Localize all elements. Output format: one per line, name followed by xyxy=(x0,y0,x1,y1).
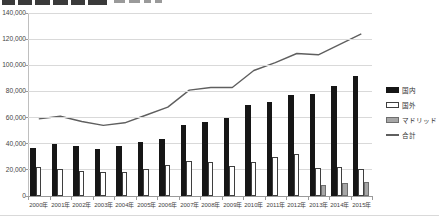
bar-国外-2010年 xyxy=(251,162,257,196)
y-axis-tick xyxy=(25,117,28,118)
x-axis-tick-label: 2005年 xyxy=(135,200,158,209)
bar-国外-2000年 xyxy=(36,167,42,196)
x-axis-tick xyxy=(200,197,201,200)
x-axis-tick-label: 2007年 xyxy=(178,200,201,209)
gridline xyxy=(28,117,372,118)
y-axis-tick xyxy=(25,169,28,170)
y-axis-tick xyxy=(25,39,28,40)
x-axis-tick xyxy=(50,197,51,200)
gridline xyxy=(28,13,372,14)
legend-item-madrid: マドリッド xyxy=(386,112,437,127)
black-swatch-icon xyxy=(386,87,399,93)
y-axis-tick-label: 20,000 xyxy=(0,167,26,173)
clipped-title-glyph xyxy=(155,0,162,3)
bar-国外-2011年 xyxy=(272,157,278,196)
x-axis-tick xyxy=(286,197,287,200)
x-axis-tick xyxy=(351,197,352,200)
x-axis-tick-label: 2009年 xyxy=(221,200,244,209)
y-axis-tick-label: 80,000 xyxy=(0,88,26,94)
plot-area xyxy=(28,13,372,196)
bar-国外-2002年 xyxy=(79,171,85,196)
line-swatch-icon xyxy=(386,134,399,136)
bar-国外-2005年 xyxy=(143,169,149,196)
y-axis-tick-label: 60,000 xyxy=(0,115,26,121)
x-axis-tick xyxy=(179,197,180,200)
clipped-title-glyph xyxy=(114,0,125,3)
x-axis-tick-label: 2004年 xyxy=(113,200,136,209)
x-axis-tick-label: 2010年 xyxy=(242,200,265,209)
clipped-title-glyph xyxy=(53,0,68,5)
x-axis-tick xyxy=(372,197,373,200)
x-axis-tick xyxy=(28,197,29,200)
y-axis-tick-label: 140,000 xyxy=(0,10,26,16)
y-axis-tick xyxy=(25,143,28,144)
x-axis-tick-label: 2003年 xyxy=(92,200,115,209)
gridline xyxy=(28,91,372,92)
bar-国外-2003年 xyxy=(100,172,106,196)
gridline xyxy=(28,143,372,144)
x-axis-tick-label: 2012年 xyxy=(285,200,308,209)
legend-label: 国内 xyxy=(402,85,416,95)
x-axis-tick-label: 2000年 xyxy=(27,200,50,209)
gridline xyxy=(28,65,372,66)
legend-item-foreign: 国外 xyxy=(386,97,437,112)
legend-label: 合計 xyxy=(402,130,416,140)
x-axis-tick-label: 2002年 xyxy=(70,200,93,209)
bar-国外-2006年 xyxy=(165,165,171,196)
bar-国外-2001年 xyxy=(57,169,63,196)
bar-国外-2008年 xyxy=(208,162,214,196)
bar-マドリッド-2015年 xyxy=(364,182,370,196)
x-axis-tick-label: 2011年 xyxy=(264,200,287,209)
x-axis-tick xyxy=(265,197,266,200)
clipped-title-glyph xyxy=(18,0,32,5)
x-axis-tick-label: 2015年 xyxy=(350,200,373,209)
bar-国外-2012年 xyxy=(294,154,300,196)
y-axis-tick-label: 40,000 xyxy=(0,141,26,147)
gray-swatch-icon xyxy=(386,117,399,123)
x-axis-tick-label: 2013年 xyxy=(307,200,330,209)
x-axis-tick xyxy=(222,197,223,200)
x-axis-tick xyxy=(157,197,158,200)
y-axis-tick-label: 100,000 xyxy=(0,62,26,68)
x-axis-tick-label: 2006年 xyxy=(156,200,179,209)
y-axis-tick-label: 0 xyxy=(0,193,26,199)
legend-label: マドリッド xyxy=(402,115,437,125)
legend-item-domestic: 国内 xyxy=(386,82,437,97)
bar-マドリッド-2013年 xyxy=(321,185,327,196)
chart-screenshot: 020,00040,00060,00080,000100,000120,0001… xyxy=(0,0,439,216)
x-axis-tick xyxy=(329,197,330,200)
white-swatch-icon xyxy=(386,102,399,108)
clipped-title-glyph xyxy=(2,0,15,5)
bar-国外-2007年 xyxy=(186,161,192,196)
clipped-title-glyph xyxy=(144,0,151,3)
legend-label: 国外 xyxy=(402,100,416,110)
y-axis-tick xyxy=(25,91,28,92)
legend-item-total: 合計 xyxy=(386,127,437,142)
clipped-title-glyph xyxy=(71,0,85,5)
x-axis-tick-label: 2014年 xyxy=(328,200,351,209)
legend: 国内 国外 マドリッド 合計 xyxy=(386,82,437,142)
y-axis-tick xyxy=(25,65,28,66)
y-axis-tick-label: 120,000 xyxy=(0,36,26,42)
x-axis-tick-label: 2008年 xyxy=(199,200,222,209)
x-axis-tick xyxy=(71,197,72,200)
x-axis-tick xyxy=(136,197,137,200)
gridline xyxy=(28,39,372,40)
clipped-title-glyph xyxy=(129,0,140,3)
bar-国外-2004年 xyxy=(122,172,128,196)
y-axis-tick xyxy=(25,13,28,14)
x-axis-tick-label: 2001年 xyxy=(49,200,72,209)
x-axis-tick xyxy=(308,197,309,200)
bar-国外-2009年 xyxy=(229,166,235,196)
x-axis-tick xyxy=(243,197,244,200)
x-axis-tick xyxy=(93,197,94,200)
bar-マドリッド-2014年 xyxy=(342,183,348,196)
clipped-title-glyph xyxy=(88,0,107,5)
x-axis-tick xyxy=(114,197,115,200)
clipped-title-glyph xyxy=(35,0,50,5)
